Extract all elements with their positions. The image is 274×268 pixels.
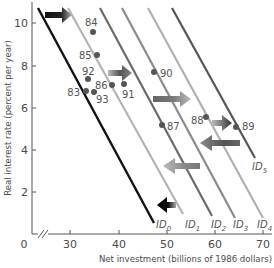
arrow-left-icon xyxy=(157,197,176,213)
x-tick-0: 0 xyxy=(21,238,28,251)
label-86: 86 xyxy=(95,80,108,91)
label-89: 89 xyxy=(242,121,255,132)
x-axis-title: Net investment (billions of 1986 dollars… xyxy=(99,254,272,264)
shift-arrows xyxy=(45,7,240,213)
y-tick-10: 10 xyxy=(14,17,28,30)
label-84: 84 xyxy=(85,17,98,28)
label-id1: ID1 xyxy=(185,219,200,233)
x-tick-60: 60 xyxy=(208,238,222,251)
y-tick-2: 2 xyxy=(21,186,28,199)
x-tick-70: 70 xyxy=(256,238,270,251)
label-id0: ID0 xyxy=(156,219,172,233)
arrow-right-icon xyxy=(108,65,132,81)
y-tick-6: 6 xyxy=(21,102,28,115)
y-tick-4: 4 xyxy=(21,144,28,157)
demand-curves xyxy=(38,8,263,223)
label-90: 90 xyxy=(160,68,173,79)
label-85: 85 xyxy=(79,50,92,61)
label-87: 87 xyxy=(167,121,180,132)
point-84 xyxy=(90,29,96,35)
axis-break-icon xyxy=(38,229,48,239)
point-87 xyxy=(159,122,165,128)
x-tick-40: 40 xyxy=(112,238,126,251)
curve-id5 xyxy=(172,8,255,158)
label-id5: ID5 xyxy=(252,161,268,175)
point-90 xyxy=(151,69,157,75)
point-83 xyxy=(83,88,89,94)
label-id3: ID3 xyxy=(233,219,248,233)
curve-id3 xyxy=(122,8,235,218)
arrow-right-icon xyxy=(153,91,191,107)
point-88 xyxy=(203,114,209,120)
x-tick-50: 50 xyxy=(160,238,174,251)
label-91: 91 xyxy=(122,89,135,100)
x-tick-30: 30 xyxy=(63,238,77,251)
curve-id4 xyxy=(148,8,263,218)
label-92: 92 xyxy=(82,66,95,77)
label-id2: ID2 xyxy=(211,219,227,233)
curve-id0 xyxy=(38,8,154,223)
label-id4: ID4 xyxy=(257,219,272,233)
label-88: 88 xyxy=(191,115,204,126)
y-tick-8: 8 xyxy=(21,60,28,73)
point-91 xyxy=(121,81,127,87)
label-83: 83 xyxy=(67,87,80,98)
curve-id2 xyxy=(100,8,212,216)
label-93: 93 xyxy=(96,94,109,105)
point-89 xyxy=(233,124,239,130)
investment-demand-chart: 10 8 6 4 2 0 30 40 50 60 70 Net investme… xyxy=(0,0,274,268)
point-85 xyxy=(94,52,100,58)
point-86 xyxy=(109,82,115,88)
y-axis-title: Real interest rate (percent per year) xyxy=(3,40,13,196)
